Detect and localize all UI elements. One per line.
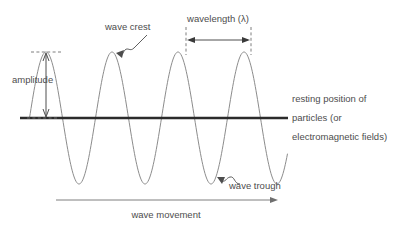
wave-crest-callout-arrow [116, 35, 147, 58]
wave-movement-label: wave movement [130, 209, 201, 220]
wave-movement-arrow [56, 197, 278, 203]
wavelength-label: wavelength (λ) [186, 13, 249, 24]
resting-position-label-line1: resting position of [292, 93, 367, 104]
wave-anatomy-diagram: amplitude wavelength (λ) wave crest wave… [0, 0, 407, 226]
wave-trough-label: wave trough [228, 180, 281, 191]
amplitude-measure-arrow [43, 53, 49, 117]
amplitude-label: amplitude [12, 74, 53, 85]
resting-position-label-line2: particles (or [292, 112, 342, 123]
wave-crest-label: wave crest [104, 21, 151, 32]
wavelength-measure-arrow [187, 37, 250, 43]
resting-position-label-line3: electromagnetic fields) [292, 131, 387, 142]
